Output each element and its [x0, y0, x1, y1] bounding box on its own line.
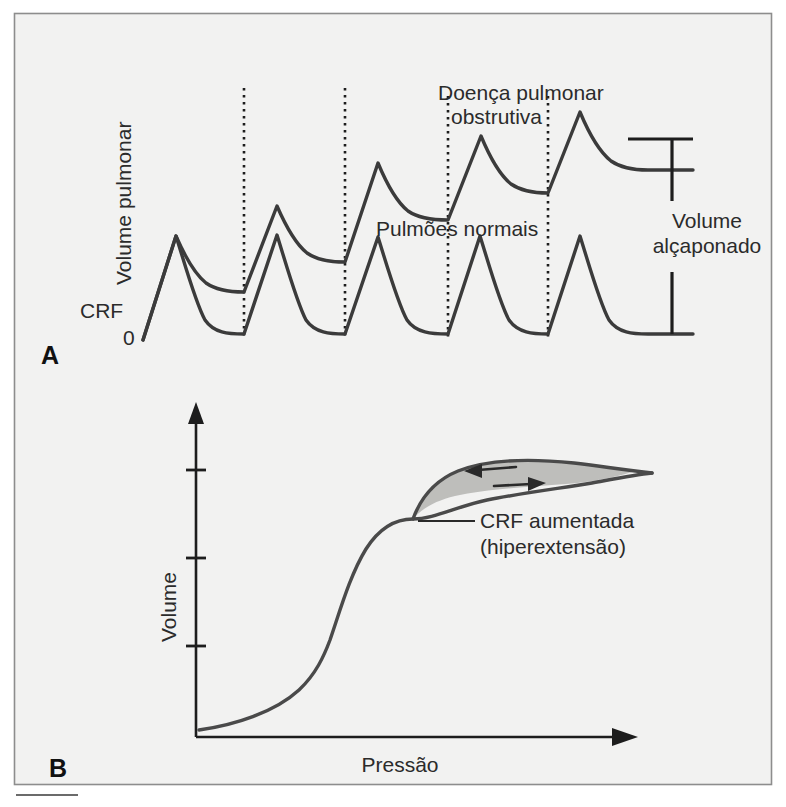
obstructive-label-line2: obstrutiva	[451, 105, 542, 128]
obstructive-label-line1: Doença pulmonar	[438, 81, 604, 104]
frc-increased-label-line1: CRF aumentada	[480, 509, 634, 532]
figure-svg: Volume pulmonar CRF 0 Doença pulmonar ob…	[0, 0, 786, 807]
trapped-volume-label-line1: Volume	[672, 209, 742, 232]
panel-b-letter: B	[49, 754, 67, 782]
normal-lungs-label: Pulmões normais	[376, 217, 538, 240]
panel-a-letter: A	[41, 341, 59, 369]
trapped-volume-label-line2: alçaponado	[653, 234, 762, 257]
panel-b-x-axis-label: Pressão	[361, 753, 438, 776]
figure-root: Volume pulmonar CRF 0 Doença pulmonar ob…	[0, 0, 786, 807]
frc-label: CRF	[80, 299, 123, 322]
baseline-zero-label: 0	[123, 326, 135, 349]
frc-increased-label-line2: (hiperextensão)	[480, 535, 626, 558]
panel-b-y-axis-label: Volume	[157, 572, 180, 642]
panel-a-y-axis-label: Volume pulmonar	[112, 122, 135, 285]
